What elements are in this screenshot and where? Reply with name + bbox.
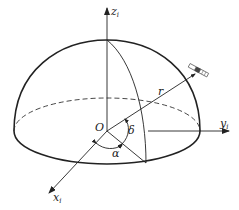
z-axis-label: zi — [111, 6, 119, 21]
right-ascension-label: α — [112, 148, 119, 159]
x-label-sub: i — [59, 197, 61, 205]
hemisphere-diagram — [0, 0, 239, 210]
y-axis-label: yi — [220, 118, 228, 133]
base-ellipse-front — [14, 131, 200, 164]
origin-label: O — [95, 122, 104, 133]
x-axis-label: xi — [53, 192, 61, 207]
satellite-icon — [188, 63, 209, 77]
radius-label: r — [158, 86, 163, 97]
x-axis — [49, 131, 107, 193]
y-label-sub: i — [226, 123, 228, 131]
position-vector — [107, 74, 195, 131]
declination-label: δ — [128, 125, 135, 136]
z-label-sub: i — [117, 11, 119, 19]
meridian-arc — [107, 40, 146, 163]
